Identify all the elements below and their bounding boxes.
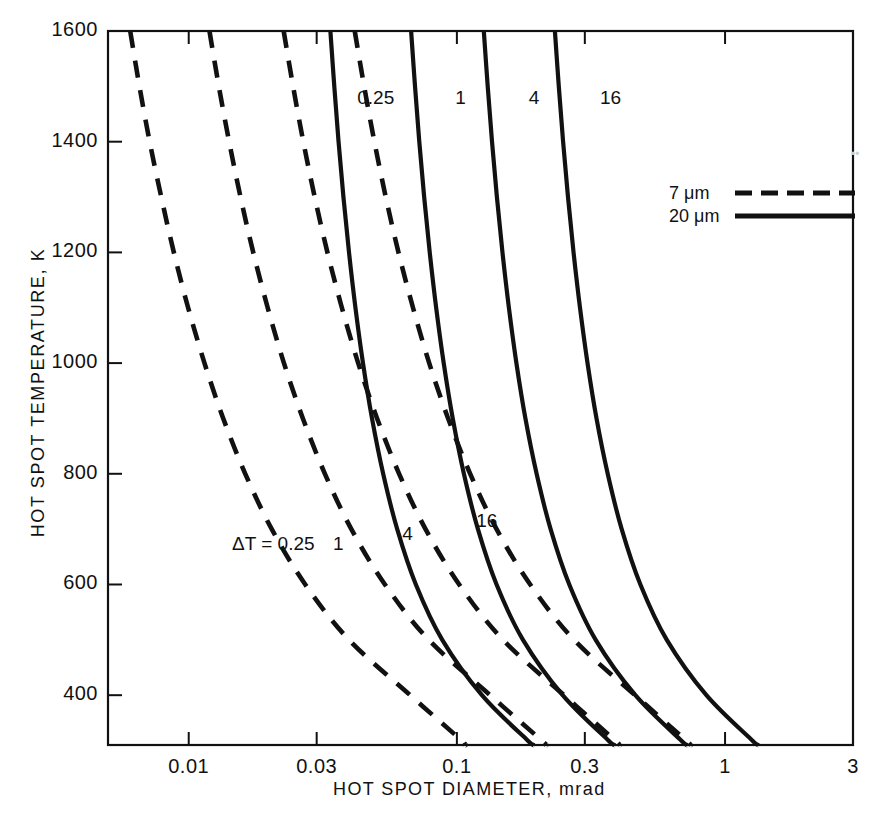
y-axis-ticks xyxy=(108,142,122,695)
scan-artifact: •• xyxy=(851,147,859,161)
x-tick-label: 0.01 xyxy=(149,755,229,778)
curve xyxy=(284,31,620,745)
curve-label: 16 xyxy=(600,87,621,109)
curve-label: 4 xyxy=(402,523,413,545)
curve xyxy=(484,31,688,745)
curve xyxy=(555,31,759,745)
y-tick-label: 1400 xyxy=(28,129,98,152)
x-tick-label: 0.03 xyxy=(277,755,357,778)
curve-label: 16 xyxy=(476,510,497,532)
x-tick-label: 0.1 xyxy=(417,755,497,778)
curve xyxy=(209,31,546,745)
figure-hot-spot-chart: 0.010.030.10.313 40060080010001200140016… xyxy=(0,0,875,822)
y-axis-title-wrapper: HOT SPOT TEMPERATURE, K xyxy=(8,186,40,606)
x-axis-title: HOT SPOT DIAMETER, mrad xyxy=(333,779,606,800)
curve-label: ΔT = 0.25 xyxy=(232,533,315,555)
x-axis-ticks xyxy=(189,31,725,745)
plot-frame xyxy=(108,31,853,745)
x-tick-label: 3 xyxy=(813,755,875,778)
x-tick-label: 0.3 xyxy=(545,755,625,778)
legend-label-7um: 7 μm xyxy=(669,183,709,204)
legend-line-samples xyxy=(735,193,855,216)
legend-label-20um: 20 μm xyxy=(669,206,719,227)
y-tick-label: 1600 xyxy=(28,18,98,41)
curve-label: 4 xyxy=(529,87,540,109)
curve-label: 1 xyxy=(455,87,466,109)
y-tick-label: 400 xyxy=(28,682,98,705)
data-curves xyxy=(130,31,758,745)
x-tick-label: 1 xyxy=(685,755,765,778)
y-axis-title: HOT SPOT TEMPERATURE, K xyxy=(28,193,49,593)
curve-label: 0.25 xyxy=(357,87,394,109)
chart-canvas xyxy=(0,0,875,822)
curve xyxy=(130,31,465,745)
curve-label: 1 xyxy=(333,533,344,555)
curve xyxy=(330,31,534,745)
